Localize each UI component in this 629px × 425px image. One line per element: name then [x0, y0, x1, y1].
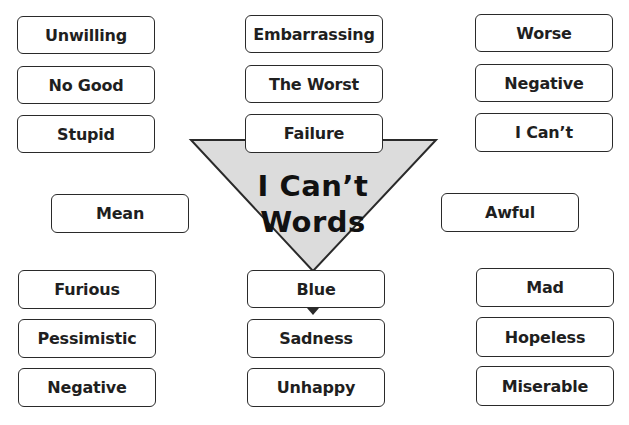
word-box-embarrassing: Embarrassing	[245, 15, 383, 53]
word-box-worse: Worse	[475, 14, 613, 52]
funnel-title-line1: I Can’t	[213, 168, 413, 204]
word-box-i-cant: I Can’t	[475, 113, 613, 152]
word-box-mean: Mean	[51, 194, 189, 233]
funnel-title-line2: Words	[213, 204, 413, 240]
arrow-down-icon	[307, 308, 319, 315]
word-box-sadness: Sadness	[247, 319, 385, 358]
word-box-pessimistic: Pessimistic	[18, 319, 156, 358]
word-box-negative-bottom: Negative	[18, 368, 156, 407]
word-box-hopeless: Hopeless	[476, 317, 614, 357]
word-box-unwilling: Unwilling	[17, 16, 155, 54]
word-box-stupid: Stupid	[17, 115, 155, 153]
word-box-failure: Failure	[245, 114, 383, 153]
word-box-mad: Mad	[476, 268, 614, 307]
word-box-no-good: No Good	[17, 66, 155, 104]
word-box-awful: Awful	[441, 193, 579, 232]
word-box-blue: Blue	[247, 270, 385, 308]
word-box-the-worst: The Worst	[245, 65, 383, 103]
word-box-negative-top: Negative	[475, 64, 613, 102]
word-box-unhappy: Unhappy	[247, 368, 385, 407]
word-box-furious: Furious	[18, 270, 156, 309]
word-box-miserable: Miserable	[476, 366, 614, 406]
